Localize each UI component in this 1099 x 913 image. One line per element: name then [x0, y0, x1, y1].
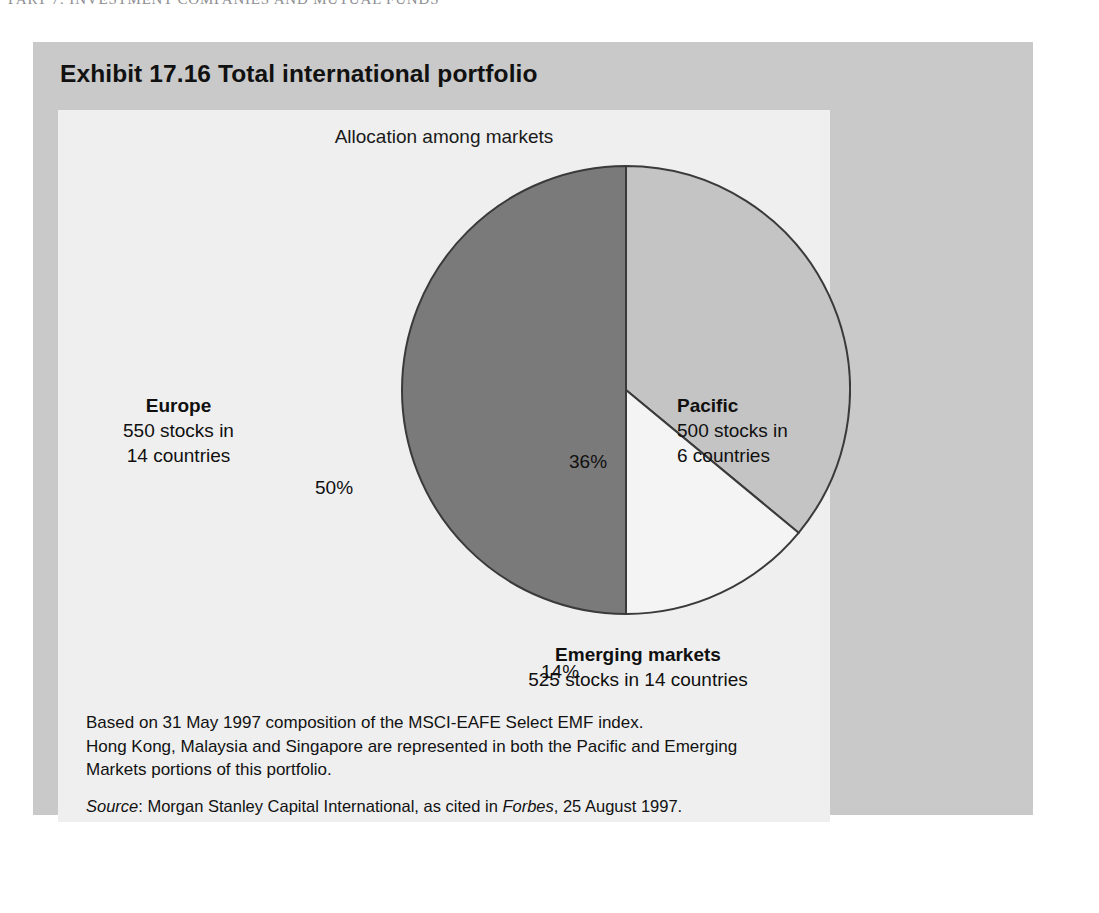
- source-label: Source: [86, 797, 138, 815]
- figure-panel: Allocation among markets 50% 36% 14% Eur…: [58, 110, 830, 822]
- pie-label-europe: 50%: [315, 477, 353, 499]
- callout-emerging: Emerging markets 525 stocks in 14 countr…: [448, 642, 828, 692]
- callout-europe-line2: 14 countries: [76, 443, 281, 468]
- callout-europe-line1: 550 stocks in: [76, 418, 281, 443]
- callout-europe: Europe 550 stocks in 14 countries: [76, 393, 281, 468]
- figure-source: Source: Morgan Stanley Capital Internati…: [86, 797, 682, 816]
- figure-note-line-1: Based on 31 May 1997 composition of the …: [86, 711, 737, 735]
- exhibit-panel: Exhibit 17.16 Total international portfo…: [33, 42, 1033, 815]
- pie-slice-europe: [402, 166, 626, 614]
- callout-emerging-heading: Emerging markets: [448, 642, 828, 667]
- running-head: PART 7: INVESTMENT COMPANIES AND MUTUAL …: [8, 0, 708, 8]
- callout-pacific: Pacific 500 stocks in 6 countries: [677, 393, 788, 468]
- source-text-before: Morgan Stanley Capital International, as…: [147, 797, 502, 815]
- callout-pacific-line2: 6 countries: [677, 443, 788, 468]
- exhibit-title: Exhibit 17.16 Total international portfo…: [60, 60, 538, 88]
- figure-notes: Based on 31 May 1997 composition of the …: [86, 711, 737, 782]
- pie-chart: [401, 165, 851, 615]
- pie-label-pacific: 36%: [569, 451, 607, 473]
- figure-note-line-3: Markets portions of this portfolio.: [86, 758, 737, 782]
- figure-subtitle: Allocation among markets: [58, 126, 830, 148]
- source-publication: Forbes: [502, 797, 553, 815]
- pie-svg: [401, 165, 851, 615]
- callout-emerging-line1: 525 stocks in 14 countries: [448, 667, 828, 692]
- figure-note-line-2: Hong Kong, Malaysia and Singapore are re…: [86, 735, 737, 759]
- callout-pacific-heading: Pacific: [677, 393, 788, 418]
- source-text-after: , 25 August 1997.: [554, 797, 682, 815]
- callout-europe-heading: Europe: [76, 393, 281, 418]
- callout-pacific-line1: 500 stocks in: [677, 418, 788, 443]
